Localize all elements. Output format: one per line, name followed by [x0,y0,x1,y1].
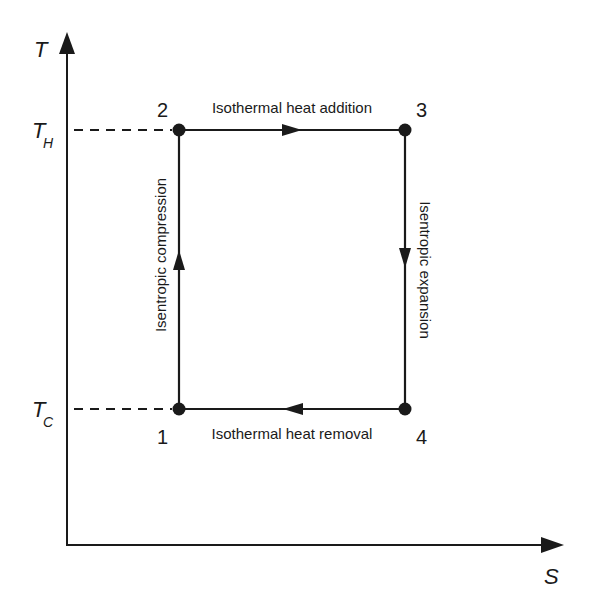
x-axis-arrowhead-icon [541,537,564,553]
process-label-heat-addition: Isothermal heat addition [212,99,372,116]
arrow-up-icon [173,250,185,270]
svg-text:H: H [43,135,54,151]
process-label-heat-removal: Isothermal heat removal [212,425,373,442]
y-axis-arrowhead-icon [59,32,75,54]
arrow-left-icon [283,403,303,415]
svg-text:C: C [43,414,54,430]
state-label-1: 1 [157,426,168,448]
y-axis-label: T [34,37,49,62]
state-label-2: 2 [157,99,168,121]
state-point-1 [173,403,186,416]
th-level-label: T H [32,118,54,151]
tc-level-label: T C [32,397,54,430]
arrow-right-icon [282,124,302,136]
ts-diagram: T S T H T C 1 2 3 4 Isothermal heat addi… [0,0,594,610]
arrow-down-icon [399,248,411,268]
state-label-4: 4 [416,426,427,448]
state-point-4 [399,403,412,416]
process-label-expansion: Isentropic expansion [417,201,434,339]
process-label-compression: Isentropic compression [152,178,169,332]
state-point-3 [399,124,412,137]
state-point-2 [173,124,186,137]
state-label-3: 3 [416,99,427,121]
x-axis-label: S [544,564,559,589]
